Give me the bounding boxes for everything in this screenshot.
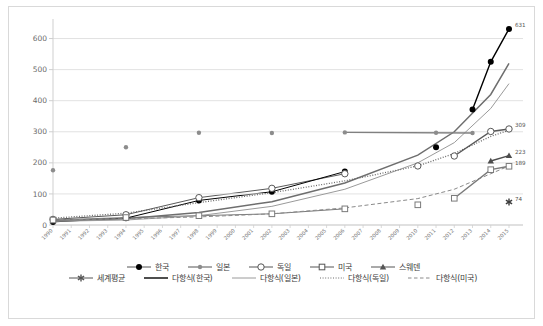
series-line xyxy=(345,132,473,133)
legend-item-다항식(미국)[interactable]: 다항식(미국) xyxy=(407,272,477,283)
legend-swatch xyxy=(187,262,213,272)
legend-swatch xyxy=(309,262,335,272)
y-axis-tick-label: 600 xyxy=(33,34,48,43)
x-axis-tick-label: 2015 xyxy=(496,227,510,241)
data-point xyxy=(470,131,474,135)
data-point xyxy=(136,264,142,270)
x-axis-tick-label: 1992 xyxy=(77,227,91,241)
data-point xyxy=(488,167,494,173)
x-axis-tick-label: 2001 xyxy=(241,227,255,241)
data-point xyxy=(343,130,347,134)
data-point xyxy=(197,264,201,268)
data-point xyxy=(488,59,494,65)
legend-item-독일[interactable]: 독일 xyxy=(248,261,291,272)
x-axis-tick-label: 1999 xyxy=(204,227,218,241)
data-point xyxy=(434,131,438,135)
chart-legend: 한국일본독일미국스웨덴 세계평균다항식(한국)다항식(일본)다항식(독일)다항식… xyxy=(9,257,536,317)
data-point xyxy=(342,206,348,212)
series-세계평균: 74 xyxy=(506,196,523,206)
legend-item-일본[interactable]: 일본 xyxy=(187,261,230,272)
x-axis-tick-label: 2007 xyxy=(350,227,364,241)
data-point-label: 223 xyxy=(515,149,526,155)
legend-swatch xyxy=(231,273,257,283)
series-line xyxy=(491,156,509,161)
data-point xyxy=(319,264,325,270)
series-일본 xyxy=(51,130,475,172)
legend-item-미국[interactable]: 미국 xyxy=(309,261,352,272)
legend-swatch xyxy=(370,262,396,272)
data-point-label: 74 xyxy=(515,196,523,202)
data-point xyxy=(257,263,263,269)
series-미국: 189 xyxy=(50,160,526,223)
legend-item-label: 세계평균 xyxy=(97,272,125,283)
data-point-label: 309 xyxy=(515,122,526,128)
legend-item-스웨덴[interactable]: 스웨덴 xyxy=(370,261,420,272)
y-axis-tick-label: 200 xyxy=(33,158,48,167)
x-axis-tick-label: 2006 xyxy=(332,227,346,241)
legend-swatch xyxy=(407,273,433,283)
trendline xyxy=(53,63,509,220)
legend-item-다항식(한국)[interactable]: 다항식(한국) xyxy=(143,272,213,283)
x-axis-tick-label: 1994 xyxy=(113,227,127,241)
y-axis-tick-label: 500 xyxy=(33,65,48,74)
data-point xyxy=(196,213,202,219)
x-axis-tick-label: 2009 xyxy=(387,227,401,241)
x-axis-tick-label: 2014 xyxy=(478,227,492,241)
x-axis-tick-label: 2012 xyxy=(441,227,455,241)
x-axis-tick-label: 1997 xyxy=(168,227,182,241)
x-axis-tick-label: 2003 xyxy=(277,227,291,241)
data-point xyxy=(488,128,494,134)
y-axis-tick-label: 0 xyxy=(42,221,47,230)
x-axis-tick-label: 1996 xyxy=(150,227,164,241)
x-axis-tick-label: 2011 xyxy=(423,227,437,241)
trendline xyxy=(53,130,509,218)
legend-item-label: 다항식(미국) xyxy=(436,272,477,283)
data-point xyxy=(506,163,512,169)
x-axis-tick-label: 2004 xyxy=(295,227,309,241)
data-point xyxy=(506,152,512,158)
legend-item-label: 다항식(독일) xyxy=(348,272,389,283)
data-point xyxy=(270,131,274,135)
data-point xyxy=(196,194,202,200)
legend-swatch xyxy=(126,262,152,272)
x-axis-tick-label: 1991 xyxy=(58,227,72,241)
x-axis-tick-label: 2013 xyxy=(460,227,474,241)
data-point xyxy=(342,171,348,177)
series-한국: 631 xyxy=(50,22,526,224)
x-axis-tick-label: 2005 xyxy=(314,227,328,241)
x-axis-tick-label: 2002 xyxy=(259,227,273,241)
data-point xyxy=(506,126,512,132)
legend-item-다항식(일본)[interactable]: 다항식(일본) xyxy=(231,272,301,283)
y-axis-tick-label: 400 xyxy=(33,96,48,105)
trendline xyxy=(53,84,509,222)
legend-swatch xyxy=(143,273,169,283)
series-독일: 309 xyxy=(50,122,526,222)
trendline xyxy=(53,166,509,220)
legend-item-label: 다항식(한국) xyxy=(172,272,213,283)
data-point xyxy=(269,185,275,191)
legend-item-한국[interactable]: 한국 xyxy=(126,261,169,272)
legend-item-다항식(독일)[interactable]: 다항식(독일) xyxy=(319,272,389,283)
data-point xyxy=(415,163,421,169)
legend-item-label: 한국 xyxy=(155,261,169,272)
x-axis-tick-label: 1995 xyxy=(131,227,145,241)
legend-swatch xyxy=(319,273,345,283)
data-point xyxy=(197,131,201,135)
x-axis-tick-label: 2000 xyxy=(223,227,237,241)
legend-item-label: 독일 xyxy=(277,261,291,272)
legend-swatch xyxy=(248,262,274,272)
legend-item-label: 다항식(일본) xyxy=(260,272,301,283)
data-point xyxy=(506,26,512,32)
data-point xyxy=(470,106,476,112)
y-axis-tick-label: 300 xyxy=(33,127,48,136)
data-point xyxy=(451,153,457,159)
data-point xyxy=(50,217,56,223)
y-axis-tick-label: 100 xyxy=(33,190,48,199)
x-axis-tick-label: 1998 xyxy=(186,227,200,241)
legend-item-label: 미국 xyxy=(338,261,352,272)
data-point xyxy=(451,195,457,201)
chart-container: 0100200300400500600199019911992199319941… xyxy=(8,6,535,319)
data-point xyxy=(433,144,439,150)
x-axis-tick-label: 1993 xyxy=(95,227,109,241)
legend-item-세계평균[interactable]: 세계평균 xyxy=(68,272,125,283)
